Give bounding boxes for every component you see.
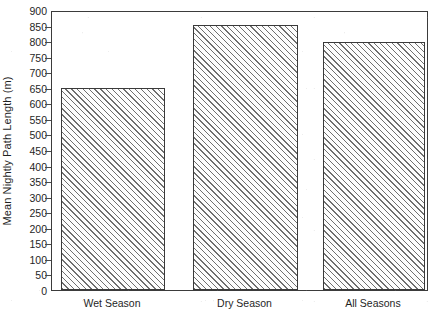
bar: [61, 88, 165, 290]
y-axis-tick-labels: 0501001502002503003504004505005506006507…: [14, 0, 48, 314]
y-axis-tick-mark: [45, 213, 51, 214]
x-axis-tick-labels: Wet SeasonDry SeasonAll Seasons: [51, 294, 428, 314]
y-axis-tick-mark: [45, 167, 51, 168]
y-axis-title: Mean Nightly Path Length (m): [0, 0, 14, 302]
y-axis-tick-mark: [45, 120, 51, 121]
y-axis-tick-mark: [45, 198, 51, 199]
y-axis-tick-mark: [45, 58, 51, 59]
plot-area: [51, 11, 428, 291]
x-axis-tick-label: All Seasons: [313, 296, 433, 310]
y-axis-tick-mark: [45, 104, 51, 105]
y-axis-tick-label: 900: [29, 5, 47, 17]
y-axis-tick-mark: [45, 89, 51, 90]
y-axis-tick-mark: [45, 135, 51, 136]
x-axis-tick-label: Wet Season: [52, 296, 172, 310]
y-axis-tick-mark: [45, 73, 51, 74]
y-axis-tick-label: 0: [41, 285, 47, 297]
y-axis-tick-mark: [45, 244, 51, 245]
bar: [323, 42, 425, 290]
y-axis-tick-mark: [45, 151, 51, 152]
bar-chart-figure: Mean Nightly Path Length (m) 05010015020…: [0, 0, 447, 314]
x-axis-tick-label: Dry Season: [185, 296, 305, 310]
y-axis-tick-mark: [45, 42, 51, 43]
y-axis-tick-mark: [45, 260, 51, 261]
y-axis-tick-mark: [45, 275, 51, 276]
bar-group: [52, 12, 427, 290]
y-axis-tick-mark: [45, 229, 51, 230]
bar: [193, 25, 298, 290]
y-axis-tick-mark: [45, 27, 51, 28]
y-axis-tick-mark: [45, 182, 51, 183]
